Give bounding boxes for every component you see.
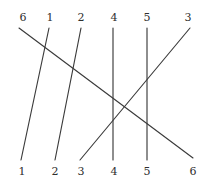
top-label-3: 2: [74, 12, 88, 24]
top-label-1: 6: [16, 12, 30, 24]
top-label-4: 4: [107, 12, 121, 24]
bottom-label-4: 4: [107, 166, 121, 178]
top-label-6: 3: [181, 12, 195, 24]
wire-top3-to-bottom3: [80, 28, 190, 160]
wire-top1-to-bottom1: [21, 28, 49, 160]
top-label-2: 1: [43, 12, 57, 24]
bottom-label-3: 3: [74, 166, 88, 178]
wiring-svg: [0, 0, 211, 187]
bottom-label-5: 5: [140, 166, 154, 178]
bottom-label-1: 1: [15, 166, 29, 178]
wire-top2-to-bottom2: [55, 28, 81, 160]
top-label-5: 5: [140, 12, 154, 24]
bottom-label-6: 6: [186, 166, 200, 178]
permutation-diagram: 6 1 2 4 5 3 1 2 3 4 5 6: [0, 0, 211, 187]
bottom-label-2: 2: [48, 166, 62, 178]
